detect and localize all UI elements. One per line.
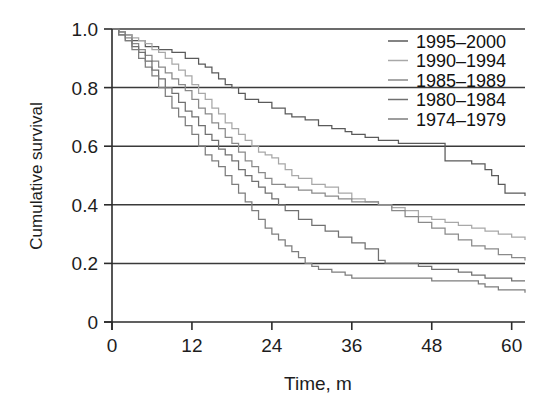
y-tick-label-0.2: 0.2 <box>72 253 98 274</box>
figure-root: 00.20.40.60.81.0 01224364860 Cumulative … <box>0 0 545 399</box>
y-tick-label-0.8: 0.8 <box>72 78 98 99</box>
y-tick-label-1.0: 1.0 <box>72 19 98 40</box>
x-tick-label-36: 36 <box>341 335 362 356</box>
x-tick-label-24: 24 <box>261 335 283 356</box>
x-tick-label-60: 60 <box>501 335 522 356</box>
y-tick-label-0.6: 0.6 <box>72 136 98 157</box>
x-tick-label-48: 48 <box>421 335 442 356</box>
legend-label-1980–1984: 1980–1984 <box>416 90 506 110</box>
y-tick-label-0: 0 <box>87 312 98 333</box>
y-tick-label-0.4: 0.4 <box>72 195 99 216</box>
legend-label-1990–1994: 1990–1994 <box>416 51 506 71</box>
y-axis-title: Cumulative survival <box>27 102 46 249</box>
legend-label-1995–2000: 1995–2000 <box>416 32 506 52</box>
x-tick-label-12: 12 <box>181 335 202 356</box>
x-tick-label-0: 0 <box>107 335 118 356</box>
survival-curve-chart: 00.20.40.60.81.0 01224364860 Cumulative … <box>0 0 545 399</box>
legend-label-1985–1989: 1985–1989 <box>416 71 506 91</box>
x-axis-title: Time, m <box>284 373 352 394</box>
legend-label-1974–1979: 1974–1979 <box>416 110 506 130</box>
